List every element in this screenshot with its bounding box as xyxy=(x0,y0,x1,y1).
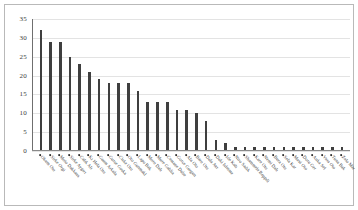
label-slot: Daki Isletme xyxy=(211,152,221,210)
label-slot: Niro Sadık xyxy=(230,152,240,210)
label-slot: Shammele Beppdi xyxy=(240,152,250,210)
bar-slot xyxy=(298,19,308,151)
bar-series xyxy=(32,19,350,151)
label-slot: Sirke Orgi xyxy=(46,152,56,210)
label-slot: Calık Alı xyxy=(75,152,85,210)
label-slot: Okum Oto xyxy=(36,152,46,210)
y-axis-tick-label: 35 xyxy=(20,16,27,23)
plot-area xyxy=(32,19,350,151)
bar xyxy=(49,42,52,151)
label-slot: Mavi Oto xyxy=(289,152,299,210)
label-slot: Kı Hela Oto xyxy=(85,152,95,210)
y-axis-tick-label: 30 xyxy=(20,34,27,41)
label-slot: Moto Dakkans xyxy=(55,152,65,210)
label-slot: Bura Oto xyxy=(269,152,279,210)
label-slot: Gorce Gurgun xyxy=(172,152,182,210)
label-slot: Gaum Arkala xyxy=(94,152,104,210)
bar-slot xyxy=(337,19,347,151)
bar-slot xyxy=(328,19,338,151)
label-slot: Sela Kar xyxy=(279,152,289,210)
bar xyxy=(88,72,91,151)
label-slot: Kare Oto xyxy=(250,152,260,210)
label-slot: Doru Ger xyxy=(298,152,308,210)
bar-slot xyxy=(123,19,133,151)
bar-slot xyxy=(308,19,318,151)
label-slot: Vera Oto xyxy=(318,152,328,210)
bar-slot xyxy=(46,19,56,151)
y-axis-tick-label: 0 xyxy=(23,148,27,155)
bar xyxy=(108,83,111,151)
bar xyxy=(98,79,101,151)
bar-slot xyxy=(201,19,211,151)
bar-slot xyxy=(260,19,270,151)
label-slot: Sirke Aygırı xyxy=(65,152,75,210)
y-axis-tick-label: 5 xyxy=(23,129,27,136)
bar-slot xyxy=(143,19,153,151)
y-axis-tick-labels: 05101520253035 xyxy=(5,19,30,151)
label-slot: Lapo Bak xyxy=(133,152,143,210)
bar-slot xyxy=(250,19,260,151)
bar xyxy=(205,121,208,151)
bar-slot xyxy=(240,19,250,151)
bar-slot xyxy=(279,19,289,151)
bar-slot xyxy=(94,19,104,151)
bar-slot xyxy=(230,19,240,151)
bar-slot xyxy=(133,19,143,151)
label-slot: Dala Avr xyxy=(201,152,211,210)
bar-slot xyxy=(114,19,124,151)
x-axis-category-label-text: Zelo Mar xyxy=(341,154,357,170)
bar-slot xyxy=(85,19,95,151)
bar-slot xyxy=(65,19,75,151)
x-axis-category-label: Zelo Mar xyxy=(339,153,356,171)
label-slot: Cemane Dube xyxy=(162,152,172,210)
chart-frame: 05101520253035 Okum OtoSirke OrgiMoto Da… xyxy=(4,4,354,206)
bar-slot xyxy=(289,19,299,151)
bar xyxy=(195,113,198,151)
x-axis-category-labels: Okum OtoSirke OrgiMoto DakkansSirke Aygı… xyxy=(32,152,350,210)
bar xyxy=(117,83,120,151)
bar xyxy=(185,110,188,151)
label-slot: Tuna Bak xyxy=(328,152,338,210)
bar xyxy=(40,30,43,151)
bar xyxy=(127,83,130,151)
x-axis-line xyxy=(32,150,350,151)
bar-slot xyxy=(192,19,202,151)
bar-slot xyxy=(318,19,328,151)
label-slot: Nemi Dalı xyxy=(260,152,270,210)
label-slot: Mure Galdia xyxy=(153,152,163,210)
bar xyxy=(156,102,159,151)
label-slot: Ciske Oto xyxy=(114,152,124,210)
bar-slot xyxy=(55,19,65,151)
label-slot: Moro Dalı xyxy=(143,152,153,210)
label-slot: Gurse Goska xyxy=(104,152,114,210)
label-slot: Zelo Mar xyxy=(337,152,347,210)
chart-figure: 05101520253035 Okum OtoSirke OrgiMoto Da… xyxy=(0,0,358,210)
bar-slot xyxy=(172,19,182,151)
label-slot: Anka Sel xyxy=(308,152,318,210)
bar-slot xyxy=(182,19,192,151)
bar xyxy=(137,91,140,151)
label-slot: Ala Oto xyxy=(182,152,192,210)
label-slot: Ide Kalı xyxy=(221,152,231,210)
label-slot: Oto Gunmakl xyxy=(123,152,133,210)
bar-slot xyxy=(104,19,114,151)
bar xyxy=(146,102,149,151)
bar-slot xyxy=(211,19,221,151)
bar-slot xyxy=(162,19,172,151)
y-axis-tick-label: 15 xyxy=(20,91,27,98)
bar xyxy=(166,102,169,151)
label-slot: Baro Oto xyxy=(192,152,202,210)
bar-slot xyxy=(269,19,279,151)
bar xyxy=(69,57,72,151)
bar-slot xyxy=(75,19,85,151)
y-axis-tick-label: 25 xyxy=(20,53,27,60)
bar-slot xyxy=(221,19,231,151)
y-axis-tick-label: 10 xyxy=(20,110,27,117)
bar xyxy=(59,42,62,151)
bar xyxy=(176,110,179,151)
bar-slot xyxy=(153,19,163,151)
y-axis-tick-label: 20 xyxy=(20,72,27,79)
bar-slot xyxy=(36,19,46,151)
bar xyxy=(78,64,81,151)
